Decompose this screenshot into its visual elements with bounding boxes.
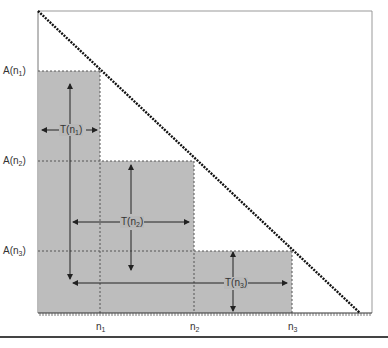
diagram-canvas [0,0,388,348]
bottom-divider [0,336,388,338]
interval-label-t-n1: T(n1) [59,124,83,136]
y-label-a-n3: A(n3) [3,245,26,257]
shaded-regions [39,71,292,313]
staircase-diagram: A(n1) A(n2) A(n3) n1 n2 n3 T(n1) T(n2) T… [0,0,388,348]
interval-label-t-n3: T(n3) [224,277,248,289]
x-label-n1: n1 [96,321,105,333]
interval-label-t-n2: T(n2) [120,216,144,228]
y-label-a-n1: A(n1) [3,65,26,77]
region-2 [100,161,194,313]
x-axis [38,313,372,316]
x-label-n2: n2 [190,321,199,333]
x-label-n3: n3 [288,321,297,333]
y-label-a-n2: A(n2) [3,155,26,167]
